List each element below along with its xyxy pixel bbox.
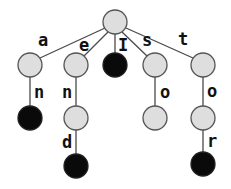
node-an-terminal (18, 106, 42, 130)
node-a (18, 53, 42, 77)
label-t: t (178, 29, 188, 49)
label-en-d: d (62, 132, 72, 152)
node-en (64, 106, 88, 130)
label-s-o: o (160, 82, 170, 102)
label-s: s (142, 30, 152, 50)
node-end-terminal (64, 154, 88, 178)
node-root (103, 10, 127, 34)
node-so (143, 106, 167, 130)
node-tor-terminal (191, 152, 215, 176)
label-a: a (38, 30, 48, 50)
node-t (191, 53, 215, 77)
label-t-o: o (207, 81, 217, 101)
node-to (191, 106, 215, 130)
label-I: I (118, 35, 128, 55)
node-I-terminal (103, 53, 127, 77)
node-e (64, 53, 88, 77)
label-e: e (79, 35, 89, 55)
node-s (143, 53, 167, 77)
label-a-n: n (34, 82, 44, 102)
label-e-n: n (62, 82, 72, 102)
trie-diagram: a e I s t n n o o d r (0, 0, 231, 189)
label-to-r: r (207, 131, 217, 151)
